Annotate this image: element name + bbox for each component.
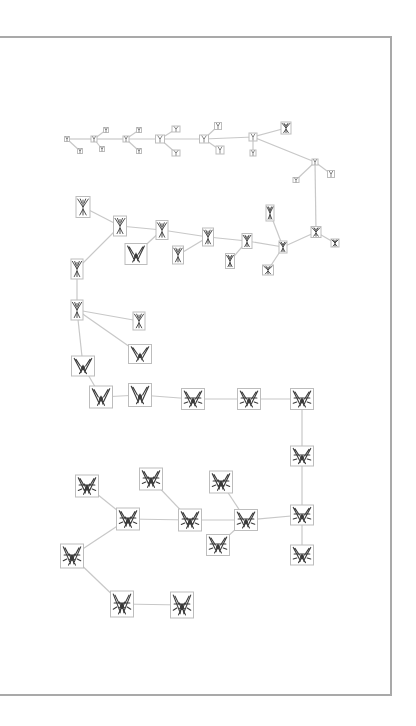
tree-node-n20 <box>311 227 321 238</box>
biomorph-body-icon <box>188 519 192 524</box>
edge-n11-n14 <box>204 137 253 139</box>
tree-node-n14 <box>249 133 257 141</box>
biomorph-body-icon <box>300 456 304 461</box>
tree-node-n5 <box>123 136 129 142</box>
tree-node-n9 <box>172 126 180 132</box>
tree-node-n46 <box>235 510 258 531</box>
biomorph-body-icon <box>247 398 251 403</box>
biomorph-body-icon <box>300 555 304 560</box>
tree-node-n55 <box>171 592 194 618</box>
biomorph-lineage-tree <box>0 0 416 726</box>
edge-n27-n29 <box>162 230 208 237</box>
tree-node-n51 <box>117 508 140 530</box>
edge-n17-n20 <box>315 162 316 232</box>
nodes-layer <box>61 122 340 618</box>
tree-node-n50 <box>140 468 163 490</box>
tree-node-n35 <box>133 312 145 330</box>
tree-node-n15 <box>250 150 256 156</box>
tree-node-n19 <box>328 171 335 178</box>
tree-node-n28 <box>173 246 184 264</box>
biomorph-body-icon <box>180 604 184 610</box>
tree-node-n41 <box>238 389 261 410</box>
tree-node-n42 <box>291 389 314 410</box>
tree-node-n3 <box>104 128 109 133</box>
tree-node-n31 <box>114 216 127 236</box>
tree-node-n54 <box>111 591 134 617</box>
tree-node-n21 <box>331 239 339 247</box>
biomorph-body-icon <box>81 366 85 371</box>
biomorph-body-icon <box>244 519 248 524</box>
edges-layer <box>67 126 335 605</box>
tree-node-n32 <box>76 197 90 218</box>
edge-n14-n17 <box>253 137 315 162</box>
biomorph-body-icon <box>300 515 304 520</box>
tree-node-n0 <box>65 137 70 142</box>
biomorph-body-icon <box>134 253 138 258</box>
tree-node-n48 <box>207 535 230 556</box>
tree-node-n6 <box>137 128 142 133</box>
biomorph-body-icon <box>85 485 89 490</box>
biomorph-body-icon <box>191 398 195 403</box>
tree-node-n16 <box>281 122 291 134</box>
tree-node-n10 <box>172 150 180 156</box>
tree-node-n45 <box>291 545 314 565</box>
tree-node-n40 <box>182 389 205 410</box>
tree-node-n1 <box>78 149 83 154</box>
biomorph-body-icon <box>149 478 153 483</box>
biomorph-body-icon <box>216 544 220 549</box>
biomorph-body-icon <box>99 396 103 401</box>
tree-node-n33 <box>71 259 83 279</box>
tree-node-n25 <box>242 234 252 249</box>
tree-node-n39 <box>129 384 152 407</box>
tree-node-n12 <box>215 123 222 130</box>
tree-node-n8 <box>156 135 165 143</box>
tree-node-n30 <box>125 244 147 265</box>
tree-node-n23 <box>266 205 274 221</box>
tree-node-n44 <box>291 505 314 525</box>
biomorph-body-icon <box>126 518 130 523</box>
tree-node-n49 <box>179 509 202 531</box>
tree-node-n7 <box>137 149 142 154</box>
tree-node-n2 <box>91 136 97 142</box>
tree-node-n22 <box>279 241 287 253</box>
tree-node-n24 <box>263 265 274 275</box>
biomorph-body-icon <box>120 603 124 609</box>
tree-node-n13 <box>216 146 224 154</box>
tree-node-n4 <box>100 147 105 152</box>
biomorph-body-icon <box>300 398 304 403</box>
tree-node-n11 <box>200 135 209 143</box>
tree-node-n43 <box>291 446 314 466</box>
tree-node-n29 <box>156 221 168 240</box>
biomorph-body-icon <box>138 354 142 359</box>
tree-node-n53 <box>61 544 84 568</box>
tree-node-n37 <box>72 356 95 376</box>
biomorph-body-icon <box>138 394 142 400</box>
tree-node-n18 <box>293 178 299 183</box>
tree-node-n52 <box>76 475 99 497</box>
tree-node-n17 <box>312 159 318 165</box>
tree-node-n38 <box>90 386 113 408</box>
biomorph-body-icon <box>70 555 74 561</box>
tree-node-n36 <box>129 345 152 364</box>
tree-node-n47 <box>210 471 233 493</box>
edge-n34-n35 <box>77 310 139 321</box>
tree-node-n27 <box>203 228 214 246</box>
tree-node-n26 <box>226 254 235 269</box>
biomorph-body-icon <box>219 481 223 486</box>
tree-node-n34 <box>71 300 83 320</box>
